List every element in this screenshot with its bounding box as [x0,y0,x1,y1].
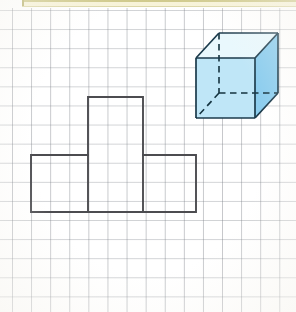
cube-diagram [196,33,278,118]
t-shaped-net [31,97,196,212]
figures-layer [0,0,296,312]
cube-face-front [196,58,255,118]
worksheet-canvas [0,0,296,312]
net-outline [31,97,196,212]
